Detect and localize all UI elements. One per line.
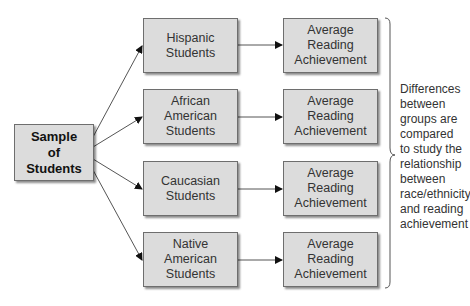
group-label: African American Students (164, 94, 217, 139)
group-label: Native American Students (164, 237, 217, 282)
arrow-sample-to-hispanic (93, 46, 142, 137)
curly-brace (385, 18, 395, 288)
group-label: Hispanic Students (166, 31, 215, 61)
outcome-box-native-american: Average Reading Achievement (283, 232, 378, 287)
brace-note: Differences between groups are compared … (400, 82, 468, 232)
sample-of-students-box: Sample of Students (14, 124, 94, 181)
outcome-box-caucasian: Average Reading Achievement (283, 161, 378, 216)
african-american-students-box: African American Students (143, 89, 238, 144)
hispanic-students-box: Hispanic Students (143, 18, 238, 73)
caucasian-students-box: Caucasian Students (143, 161, 238, 216)
outcome-label: Average Reading Achievement (294, 166, 366, 211)
arrow-sample-to-african-american (93, 117, 142, 147)
sample-of-students-label: Sample of Students (26, 129, 82, 177)
outcome-label: Average Reading Achievement (294, 94, 366, 139)
diagram-canvas: Sample of Students Hispanic Students Afr… (0, 0, 470, 306)
outcome-box-hispanic: Average Reading Achievement (283, 18, 378, 73)
group-label: Caucasian Students (161, 174, 220, 204)
outcome-box-african-american: Average Reading Achievement (283, 89, 378, 144)
outcome-label: Average Reading Achievement (294, 237, 366, 282)
native-american-students-box: Native American Students (143, 232, 238, 287)
outcome-label: Average Reading Achievement (294, 23, 366, 68)
arrow-sample-to-native-american (93, 170, 142, 260)
